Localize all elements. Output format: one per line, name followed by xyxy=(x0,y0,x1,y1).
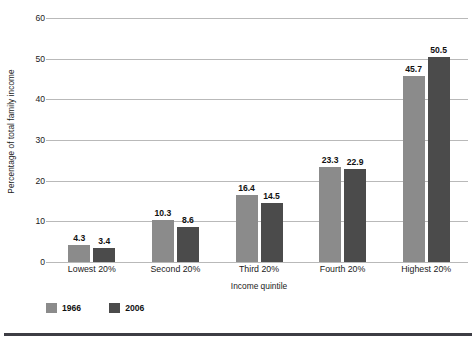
x-axis-title: Income quintile xyxy=(50,281,468,291)
bar[interactable] xyxy=(261,203,283,262)
bar[interactable] xyxy=(319,167,341,262)
bar-value-label: 22.9 xyxy=(338,157,372,167)
x-tick-label: Fourth 20% xyxy=(295,264,391,274)
y-tick-label: 30 xyxy=(35,135,45,145)
bar[interactable] xyxy=(68,245,90,262)
gridline xyxy=(50,262,468,263)
legend-swatch-icon xyxy=(46,303,57,313)
bar[interactable] xyxy=(93,248,115,262)
bar-group: 23.322.9 xyxy=(319,18,366,262)
bar[interactable] xyxy=(236,195,258,262)
bar-value-label: 14.5 xyxy=(255,191,289,201)
y-tick-mark xyxy=(46,262,50,263)
x-axis-ticks: Lowest 20%Second 20%Third 20%Fourth 20%H… xyxy=(50,264,468,280)
bottom-divider xyxy=(4,333,472,336)
bar-group: 45.750.5 xyxy=(403,18,450,262)
legend-label: 2006 xyxy=(125,303,144,313)
bar-value-label: 8.6 xyxy=(171,215,205,225)
legend-label: 1966 xyxy=(62,303,81,313)
bar-value-label: 50.5 xyxy=(422,45,456,55)
bar-group: 10.38.6 xyxy=(152,18,199,262)
y-axis-title-text: Percentage of total family income xyxy=(7,69,16,193)
x-tick-label: Lowest 20% xyxy=(44,264,140,274)
x-tick-label: Second 20% xyxy=(127,264,223,274)
plot-area: 0102030405060 4.33.410.38.616.414.523.32… xyxy=(50,18,468,262)
bar-value-label: 3.4 xyxy=(87,236,121,246)
y-axis-title: Percentage of total family income xyxy=(0,0,22,262)
bar[interactable] xyxy=(177,227,199,262)
bar-group: 16.414.5 xyxy=(236,18,283,262)
y-tick-label: 60 xyxy=(35,13,45,23)
legend-item[interactable]: 2006 xyxy=(109,303,144,313)
legend-swatch-icon xyxy=(109,303,120,313)
x-tick-label: Highest 20% xyxy=(378,264,474,274)
bar-group: 4.33.4 xyxy=(68,18,115,262)
y-tick-label: 50 xyxy=(35,54,45,64)
y-tick-label: 20 xyxy=(35,176,45,186)
legend-item[interactable]: 1966 xyxy=(46,303,81,313)
bar-value-label: 45.7 xyxy=(397,64,431,74)
y-tick-label: 10 xyxy=(35,216,45,226)
bar[interactable] xyxy=(344,169,366,262)
chart-legend: 19662006 xyxy=(46,303,172,313)
y-tick-label: 40 xyxy=(35,94,45,104)
chart-figure: Percentage of total family income 010203… xyxy=(0,0,476,346)
bar[interactable] xyxy=(428,57,450,262)
x-tick-label: Third 20% xyxy=(211,264,307,274)
bar[interactable] xyxy=(403,76,425,262)
bar[interactable] xyxy=(152,220,174,262)
bars-layer: 4.33.410.38.616.414.523.322.945.750.5 xyxy=(50,18,468,262)
